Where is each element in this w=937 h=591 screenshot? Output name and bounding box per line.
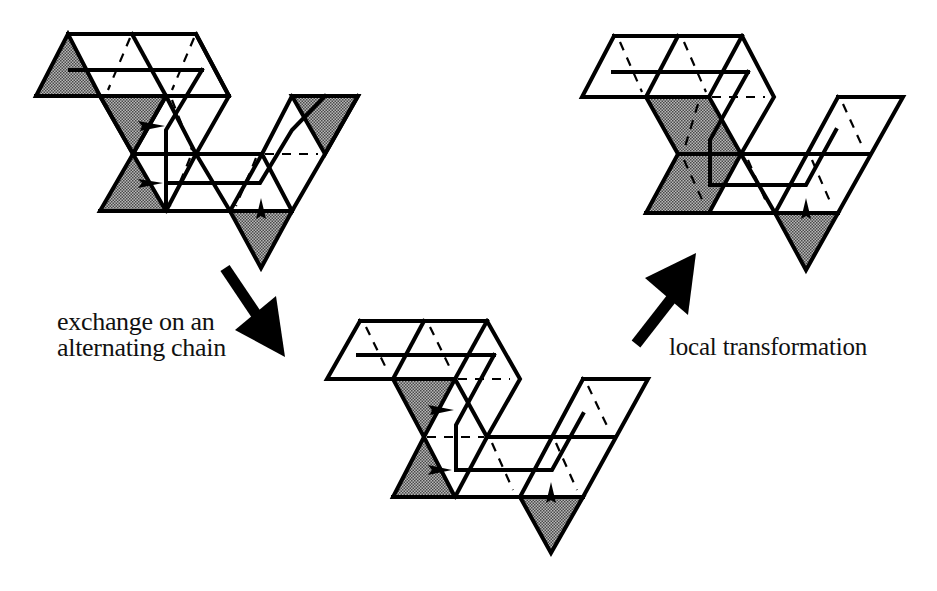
arrow-exchange xyxy=(225,268,285,357)
caption-exchange-line2: alternating chain xyxy=(57,335,226,361)
caption-exchange: exchange on an alternating chain xyxy=(57,309,226,361)
figure-canvas xyxy=(0,0,937,591)
panel-intermediate xyxy=(327,321,648,553)
panel-initial xyxy=(36,34,358,268)
arrow-mark xyxy=(546,482,556,503)
shaded-triangle xyxy=(520,497,583,553)
caption-local-transformation: local transformation xyxy=(669,334,867,359)
shaded-triangle xyxy=(230,211,292,268)
shaded-triangle xyxy=(775,213,838,270)
arrow-mark xyxy=(801,198,811,219)
shaded-triangle xyxy=(36,34,100,96)
arrowhead-down-right xyxy=(235,296,285,357)
arrow-mark xyxy=(256,198,266,219)
panel-final xyxy=(582,36,903,270)
shaded-triangle xyxy=(393,437,455,497)
shaded-triangle xyxy=(292,96,358,154)
shaded-triangle xyxy=(393,379,455,437)
caption-exchange-line1: exchange on an xyxy=(57,309,226,335)
arrow-local xyxy=(636,253,696,344)
shaded-region xyxy=(646,97,741,154)
